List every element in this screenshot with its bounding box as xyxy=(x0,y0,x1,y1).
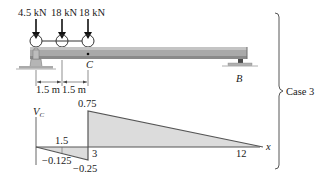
load-label-1: 4.5 kN xyxy=(18,7,47,18)
dimension-label-2: 1.5 m xyxy=(62,84,86,95)
y-axis-label: VC xyxy=(33,106,44,119)
support-b-label: B xyxy=(236,73,243,84)
x-axis-label: x xyxy=(265,141,271,152)
roller-support-icon xyxy=(222,59,258,66)
label-x-3: 3 xyxy=(92,148,97,159)
label-x-12: 12 xyxy=(236,148,247,159)
case-brace xyxy=(275,13,283,169)
dimension-lines xyxy=(36,60,88,86)
label-neg-min: −0.25 xyxy=(73,163,97,174)
label-neg-mid: −0.125 xyxy=(42,155,72,166)
point-c-marker xyxy=(87,53,90,56)
dimension-label-1: 1.5 m xyxy=(36,84,60,95)
point-c-label: C xyxy=(86,59,94,70)
label-x-1-5: 1.5 xyxy=(55,135,68,146)
beam xyxy=(30,47,247,59)
load-label-2: 18 kN xyxy=(51,7,77,18)
case-label: Case 3 xyxy=(286,86,314,97)
label-peak-positive: 0.75 xyxy=(78,98,96,109)
beam-influence-diagram: 4.5 kN 18 kN 18 kN C B xyxy=(0,0,331,182)
load-arrows xyxy=(32,19,92,39)
load-label-3: 18 kN xyxy=(79,7,105,18)
